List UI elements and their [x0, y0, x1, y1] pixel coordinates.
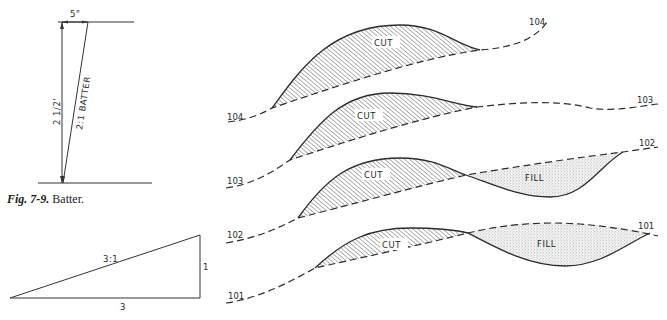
station-label-right: 103	[637, 95, 653, 105]
height-dimension-label: 2 1/2'	[52, 98, 62, 125]
triangle-slope-line	[10, 235, 200, 298]
caption-text: Batter.	[52, 192, 84, 206]
arrowhead-icon	[62, 21, 68, 24]
triangle-rise-label: 1	[203, 262, 209, 272]
batter-figure: 5" 2 1/2' 2:1 BATTER	[38, 9, 152, 183]
cut-label: CUT	[374, 38, 393, 48]
drawing-canvas: 5" 2 1/2' 2:1 BATTER 3:1 3 1 CUT 104 104…	[0, 0, 667, 320]
fill-label: FILL	[537, 239, 556, 249]
station-label-left: 104	[227, 112, 243, 122]
batter-slope-label: 2:1 BATTER	[74, 76, 92, 131]
arrowhead-icon	[82, 21, 88, 24]
station-label-right: 102	[639, 138, 655, 148]
cut-label: CUT	[357, 111, 376, 121]
cut-label: CUT	[364, 170, 383, 180]
caption-number: Fig. 7-9.	[7, 192, 49, 206]
station-label-left: 103	[227, 176, 243, 186]
station-label-left: 101	[228, 291, 244, 301]
fill-region	[466, 152, 623, 197]
triangle-run-label: 3	[120, 302, 126, 312]
triangle-slope-label: 3:1	[103, 254, 118, 264]
station-label-left: 102	[227, 230, 243, 240]
cross-section-101: CUT FILL 101 101	[226, 221, 658, 303]
fill-label: FILL	[525, 173, 544, 183]
slope-triangle-figure: 3:1 3 1	[10, 235, 209, 312]
cut-label: CUT	[382, 240, 401, 250]
arrowhead-icon	[60, 22, 64, 29]
station-label-right: 101	[638, 221, 654, 231]
figure-caption: Fig. 7-9. Batter.	[7, 192, 84, 207]
top-dimension-label: 5"	[70, 9, 80, 19]
station-label-right: 104	[529, 17, 545, 27]
